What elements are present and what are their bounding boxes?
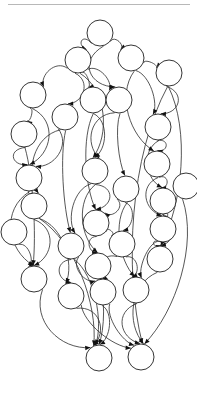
graph-edge [144, 61, 157, 68]
node-circle[interactable] [80, 87, 106, 113]
node-circle[interactable] [109, 231, 135, 257]
node-circle[interactable] [65, 47, 91, 73]
node-circle[interactable] [85, 253, 111, 279]
node-circle[interactable] [58, 233, 84, 259]
graph-edge [117, 113, 124, 175]
graph-node[interactable] [150, 188, 176, 214]
graph-node[interactable] [80, 87, 106, 113]
graph-edge [59, 260, 71, 283]
node-circle[interactable] [147, 246, 173, 272]
node-circle[interactable] [21, 266, 47, 292]
graph-edge [95, 185, 110, 210]
graph-node[interactable] [85, 253, 111, 279]
node-circle[interactable] [20, 82, 46, 108]
graph-edge [122, 303, 140, 343]
graph-node[interactable] [21, 266, 47, 292]
edge-arrowhead [129, 342, 135, 346]
graph-edge [63, 130, 71, 232]
graph-node[interactable] [173, 173, 197, 199]
graph-node[interactable] [113, 176, 139, 202]
node-circle[interactable] [150, 188, 176, 214]
graph-edge [93, 113, 104, 157]
node-circle[interactable] [83, 210, 109, 236]
graph-node[interactable] [20, 82, 46, 108]
graph-edge [91, 113, 115, 158]
node-circle[interactable] [118, 45, 144, 71]
graph-edge [111, 39, 122, 49]
graph-edge [34, 220, 50, 266]
edge-arrowhead [148, 146, 154, 151]
node-circle[interactable] [87, 20, 113, 46]
node-circle[interactable] [11, 121, 37, 147]
graph-node[interactable] [1, 219, 27, 245]
graph-node[interactable] [145, 114, 171, 140]
node-circle[interactable] [173, 173, 197, 199]
graph-node[interactable] [90, 279, 116, 305]
graph-node[interactable] [65, 47, 91, 73]
graph-node[interactable] [118, 45, 144, 71]
node-circle[interactable] [113, 176, 139, 202]
node-circle[interactable] [144, 151, 170, 177]
graph-node[interactable] [87, 20, 113, 46]
graph-edge [43, 66, 67, 87]
graph-node[interactable] [147, 246, 173, 272]
graph-edge [27, 108, 32, 121]
node-circle[interactable] [145, 114, 171, 140]
node-layer [1, 20, 197, 371]
graph-node[interactable] [86, 345, 112, 371]
node-circle[interactable] [150, 216, 176, 242]
node-circle[interactable] [52, 104, 78, 130]
graph-edge [107, 229, 114, 235]
graph-node[interactable] [83, 210, 109, 236]
graph-edge [126, 71, 154, 151]
node-circle[interactable] [82, 158, 108, 184]
node-circle[interactable] [156, 60, 182, 86]
graph-node[interactable] [150, 216, 176, 242]
graph-node[interactable] [109, 231, 135, 257]
node-circle[interactable] [21, 193, 47, 219]
graph-node[interactable] [123, 277, 149, 303]
graph-node[interactable] [58, 233, 84, 259]
graph-node[interactable] [21, 193, 47, 219]
graph-edge [81, 305, 131, 348]
edge-arrowhead [67, 227, 71, 233]
graph-edge [161, 86, 179, 114]
node-circle[interactable] [128, 344, 154, 370]
graph-edge [157, 140, 166, 151]
graph-node[interactable] [106, 87, 132, 113]
graph-edge [136, 71, 155, 115]
edge-arrowhead [156, 183, 162, 187]
node-circle[interactable] [1, 219, 27, 245]
graph-svg [0, 0, 197, 393]
graph-node[interactable] [128, 344, 154, 370]
node-circle[interactable] [16, 165, 42, 191]
graph-node[interactable] [144, 151, 170, 177]
graph-node[interactable] [156, 60, 182, 86]
graph-node[interactable] [58, 283, 84, 309]
graph-node[interactable] [82, 158, 108, 184]
node-circle[interactable] [123, 277, 149, 303]
graph-node[interactable] [11, 121, 37, 147]
node-circle[interactable] [86, 345, 112, 371]
node-circle[interactable] [106, 87, 132, 113]
graph-canvas [0, 0, 197, 393]
graph-edge [89, 46, 115, 87]
graph-node[interactable] [52, 104, 78, 130]
graph-node[interactable] [16, 165, 42, 191]
node-circle[interactable] [90, 279, 116, 305]
graph-edge [105, 199, 120, 215]
node-circle[interactable] [58, 283, 84, 309]
